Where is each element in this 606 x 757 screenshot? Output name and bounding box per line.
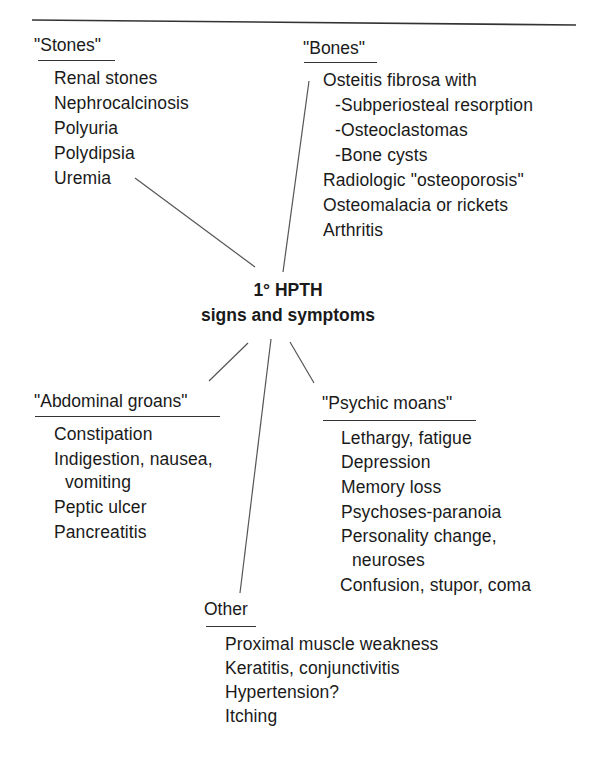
bones-header: "Bones" (303, 38, 365, 58)
connector-abdominal (209, 343, 248, 381)
connector-stones (135, 178, 255, 267)
psychic-item: Psychoses-paranoia (341, 502, 501, 522)
connector-bones (283, 81, 309, 272)
abdominal-header: "Abdominal groans" (34, 391, 187, 411)
stones-item: Polydipsia (54, 143, 135, 163)
psychic-item: neuroses (352, 550, 425, 570)
other-item: Hypertension? (225, 682, 339, 702)
abdominal-item: Constipation (54, 424, 152, 444)
stones-item: Uremia (54, 168, 111, 188)
bones-item: -Osteoclastomas (335, 120, 468, 140)
other-item: Itching (225, 706, 277, 726)
psychic-item: Lethargy, fatigue (341, 428, 472, 448)
bones-underline (304, 62, 377, 63)
bones-item: Osteitis fibrosa with (323, 70, 477, 90)
stones-header: "Stones" (34, 35, 101, 55)
other-underline (206, 626, 256, 627)
abdominal-item: Pancreatitis (54, 522, 147, 542)
stones-item: Polyuria (54, 118, 118, 138)
center-title-line1: 1° HPTH (168, 278, 408, 303)
hpth-diagram: "Stones" Renal stones Nephrocalcinosis P… (0, 0, 606, 757)
connector-psychic (290, 342, 314, 383)
psychic-underline (323, 420, 476, 421)
bones-item: Osteomalacia or rickets (323, 195, 508, 215)
top-rule (32, 20, 576, 25)
abdominal-item: vomiting (65, 472, 131, 492)
abdominal-underline (35, 416, 220, 417)
other-item: Proximal muscle weakness (225, 634, 438, 654)
abdominal-item: Indigestion, nausea, (54, 449, 213, 469)
stones-item: Nephrocalcinosis (54, 93, 189, 113)
psychic-header: "Psychic moans" (322, 393, 452, 413)
center-title-line2: signs and symptoms (168, 303, 408, 328)
other-item: Keratitis, conjunctivitis (225, 658, 400, 678)
connector-other (240, 339, 271, 593)
psychic-item: Memory loss (341, 477, 441, 497)
psychic-item: Depression (341, 452, 431, 472)
bones-item: Radiologic "osteoporosis" (323, 170, 524, 190)
bones-item: -Subperiosteal resorption (335, 95, 533, 115)
abdominal-item: Peptic ulcer (54, 497, 147, 517)
bones-item: -Bone cysts (335, 145, 428, 165)
center-title: 1° HPTH signs and symptoms (168, 278, 408, 328)
stones-underline (38, 60, 115, 61)
psychic-item: Confusion, stupor, coma (340, 575, 531, 595)
other-header: Other (204, 599, 248, 619)
stones-item: Renal stones (54, 68, 157, 88)
psychic-item: Personality change, (341, 526, 497, 546)
bones-item: Arthritis (323, 220, 383, 240)
